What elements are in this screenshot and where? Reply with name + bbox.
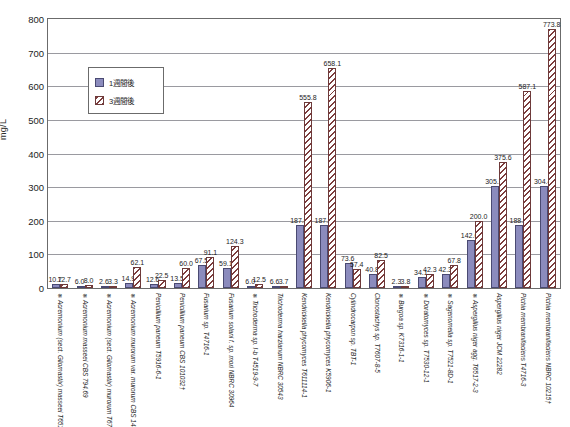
bar-value-label: 57.4 [350, 261, 364, 269]
x-axis-label: Clonostachys sp. T7607-8-5 [373, 293, 380, 425]
bar-group: 188.5587.1 [511, 19, 535, 288]
bar-group: 6.08.0 [72, 19, 96, 288]
legend-swatch-week1 [95, 78, 104, 87]
bar-w1: 304.4 [540, 186, 548, 288]
bar-w3: 91.1 [206, 257, 214, 288]
x-axis-label-cell: Pichia membranifaciens NBRC 10215† [536, 292, 560, 425]
bar-value-label: 658.1 [324, 60, 342, 68]
bar-w3: 12.7 [60, 284, 68, 288]
bar-series-container: 10.712.76.08.02.63.314.962.112.622.513.5… [48, 19, 560, 288]
x-axis-label: Penicillium paneum T5916-6-1 [154, 293, 161, 425]
bar-w1: 12.6 [150, 284, 158, 288]
x-axis-label-cell: Kendrickiella phycomyces K5906-1 [316, 292, 340, 425]
x-axis-label: ※ Sagenomella sp. T7521-8D-1 [446, 293, 453, 425]
bar-w1: 6.6 [272, 286, 280, 288]
bar-w3: 8.0 [85, 285, 93, 288]
x-axis-label: ※ Acremonium masseei CBS 794.69 [81, 293, 88, 425]
x-axis-label-cell: Fusarium solani f. sp. mori NBRC 30964 [219, 292, 243, 425]
bar-group: 6.63.7 [267, 19, 291, 288]
bar-w1: 187.4 [320, 225, 328, 288]
x-axis-label-cell: Fusarium sp. T4716-1 [194, 292, 218, 425]
bar-w3: 60.0 [182, 268, 190, 288]
bar-w3: 3.3 [109, 286, 117, 288]
bar-w3: 200.0 [475, 221, 483, 288]
x-axis-label: Trichoderma harzianum NBRC 30543 [276, 293, 283, 425]
bar-value-label: 773.8 [543, 21, 561, 29]
x-axis-label: Kendrickiella phycomyces K5906-1 [325, 293, 332, 425]
bar-w3: 12.5 [255, 284, 263, 288]
x-axis-label-cell: ※ Trichoderma sp. I-b T4519-9-7 [243, 292, 267, 425]
y-tick-label: 600 [4, 81, 44, 92]
x-axis-label-cell: Kendrickiella phycomyces T611114-1 [292, 292, 316, 425]
chart-legend: 1週間後 3週間後 [88, 67, 164, 114]
x-axis-label: ※ Acremonium (sect. Gliomastix) masseei … [56, 293, 63, 425]
bar-w3: 658.1 [328, 68, 336, 288]
legend-item-week3: 3週間後 [95, 91, 159, 109]
bar-w1: 67.5 [198, 265, 206, 288]
legend-label-week3: 3週間後 [109, 95, 134, 106]
y-tick-label: 200 [4, 215, 44, 226]
bar-w1: 2.3 [393, 286, 401, 288]
x-axis-label-cell: ※ Acremonium (sect. Gliomastix) murorum … [97, 292, 121, 425]
bar-w3: 42.3 [426, 274, 434, 288]
bar-group: 2.63.3 [97, 19, 121, 288]
bar-w3: 22.5 [158, 280, 166, 288]
bar-group: 10.712.7 [48, 19, 72, 288]
x-axis-label: Kendrickiella phycomyces T611114-1 [300, 293, 307, 425]
x-axis-label: ※ Aspergillus niger agg. T6517-2-3 [471, 293, 478, 425]
x-axis-label-cell: ※ Sagenomella sp. T7521-8D-1 [438, 292, 462, 425]
y-axis-ticks: 8007006005004003002001000 [0, 18, 44, 289]
bar-w3: 773.8 [548, 29, 556, 288]
x-axis-label-cell: Trichoderma harzianum NBRC 30543 [267, 292, 291, 425]
bar-group: 187.4658.1 [316, 19, 340, 288]
x-axis-label: Cylindrocarpon sp. TBT-1 [349, 293, 356, 425]
bar-group: 12.622.5 [146, 19, 170, 288]
bar-value-label: 8.0 [84, 277, 94, 285]
bar-value-label: 3.3 [108, 278, 118, 286]
bar-value-label: 3.7 [279, 278, 289, 286]
bar-value-label: 60.0 [179, 260, 193, 268]
bar-w3: 57.4 [353, 269, 361, 288]
bar-w1: 305.2 [491, 186, 499, 288]
y-tick-label: 300 [4, 182, 44, 193]
bar-group: 67.591.1 [194, 19, 218, 288]
bar-w3: 587.1 [523, 91, 531, 288]
x-axis-label-cell: Clonostachys sp. T7607-8-5 [365, 292, 389, 425]
bar-w3: 62.1 [133, 267, 141, 288]
bar-value-label: 3.8 [401, 278, 411, 286]
bar-group: 304.4773.8 [536, 19, 560, 288]
bar-w3: 82.5 [377, 260, 385, 288]
y-tick-label: 0 [4, 283, 44, 294]
x-axis-label: Aspergillus niger JCM 22282 [495, 293, 502, 425]
bar-w1: 42.3 [442, 274, 450, 288]
bar-w1: 6.0 [77, 286, 85, 288]
bar-value-label: 12.5 [252, 276, 266, 284]
bar-group: 42.367.8 [438, 19, 462, 288]
x-axis-label-cell: Aspergillus niger JCM 22282 [487, 292, 511, 425]
x-axis-label-cell: ※ Acremonium masseei CBS 794.69 [72, 292, 96, 425]
x-axis-label: Pichia membranifaciens NBRC 10215† [544, 293, 551, 425]
bar-group: 6.012.5 [243, 19, 267, 288]
bar-value-label: 67.8 [447, 257, 461, 265]
bar-group: 14.962.1 [121, 19, 145, 288]
bar-w1: 13.5 [174, 283, 182, 288]
x-axis-label: Fusarium solani f. sp. mori NBRC 30964 [227, 293, 234, 425]
bar-w1: 187.8 [296, 225, 304, 288]
bar-value-label: 12.7 [57, 276, 71, 284]
bar-value-label: 555.8 [299, 94, 317, 102]
bar-w1: 6.0 [247, 286, 255, 288]
x-axis-labels: ※ Acremonium (sect. Gliomastix) masseei … [48, 292, 560, 425]
x-axis-label-cell: Cylindrocarpon sp. TBT-1 [341, 292, 365, 425]
bar-w1: 40.8 [369, 274, 377, 288]
bar-w1: 34.1 [418, 277, 426, 288]
x-axis-label-cell: Penicillium paneum CBS 101032† [170, 292, 194, 425]
bar-value-label: 124.3 [226, 238, 244, 246]
bar-w1: 142.6 [467, 240, 475, 288]
bar-group: 59.1124.3 [219, 19, 243, 288]
bar-value-label: 375.6 [494, 154, 512, 162]
y-tick-label: 400 [4, 148, 44, 159]
legend-label-week1: 1週間後 [109, 77, 134, 88]
bar-w3: 3.8 [401, 286, 409, 288]
bar-w3: 555.8 [304, 102, 312, 288]
bar-chart: mg/L 8007006005004003002001000 10.712.76… [0, 0, 570, 427]
